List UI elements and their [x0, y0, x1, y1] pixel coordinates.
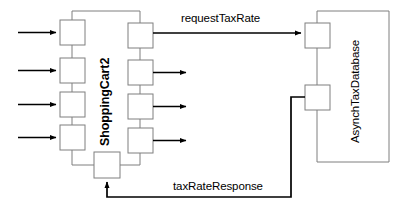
activation-box-db-2	[305, 85, 330, 110]
activation-box-left-3	[60, 92, 85, 117]
activation-box-db-1	[305, 23, 330, 48]
activation-box-bottom	[94, 152, 120, 178]
shoppingcart2-right-column	[120, 23, 153, 165]
activation-box-left-1	[60, 20, 85, 45]
shoppingcart2-bottom-box	[94, 152, 120, 178]
asynchtaxdatabase-frame	[305, 11, 389, 162]
activation-box-left-2	[60, 58, 85, 83]
diagram-graphics	[0, 0, 405, 212]
inbound-arrows	[18, 33, 56, 138]
activation-box-right-2	[128, 60, 153, 85]
activation-box-right-1	[128, 23, 153, 48]
outbound-arrows	[153, 73, 186, 141]
diagram-canvas: requestTaxRate taxRateResponse ShoppingC…	[0, 0, 405, 212]
activation-box-left-4	[60, 125, 85, 150]
shoppingcart2-left-column	[60, 20, 94, 165]
activation-box-right-3	[128, 94, 153, 119]
activation-box-right-4	[128, 128, 153, 153]
